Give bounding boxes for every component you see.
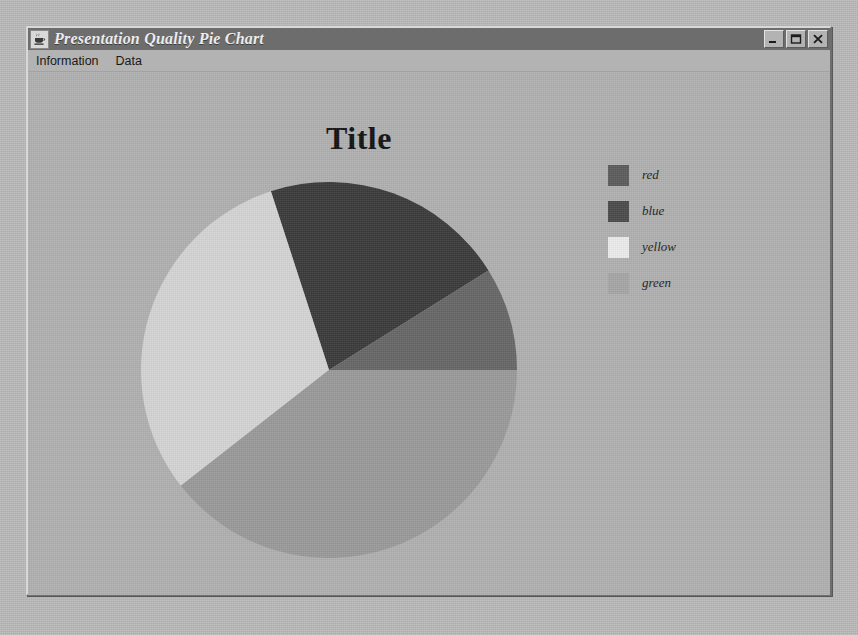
window-title: Presentation Quality Pie Chart (54, 30, 764, 48)
legend-swatch-yellow (608, 237, 629, 258)
window-controls (764, 30, 828, 48)
legend-swatch-red (608, 165, 629, 186)
close-button[interactable] (808, 30, 828, 48)
chart-legend: red blue yellow green (608, 157, 738, 301)
application-window: Presentation Quality Pie Chart Info (26, 26, 832, 596)
legend-label-blue: blue (642, 203, 664, 219)
chart-title: Title (28, 120, 830, 157)
legend-item-blue[interactable]: blue (608, 193, 738, 229)
title-bar[interactable]: Presentation Quality Pie Chart (28, 28, 830, 50)
java-coffee-cup-icon[interactable] (30, 30, 49, 49)
legend-label-red: red (642, 167, 659, 183)
legend-swatch-blue (608, 201, 629, 222)
pie-slice-group (141, 182, 517, 558)
maximize-button[interactable] (786, 30, 806, 48)
chart-canvas: Title red blue yellow green (28, 72, 830, 595)
legend-item-green[interactable]: green (608, 265, 738, 301)
legend-item-red[interactable]: red (608, 157, 738, 193)
legend-label-green: green (642, 275, 671, 291)
menu-item-data[interactable]: Data (116, 52, 151, 70)
minimize-button[interactable] (764, 30, 784, 48)
pie-chart[interactable] (141, 182, 517, 558)
legend-label-yellow: yellow (642, 239, 676, 255)
menu-item-information[interactable]: Information (36, 52, 108, 70)
legend-swatch-green (608, 273, 629, 294)
menu-bar: Information Data (28, 50, 830, 72)
legend-item-yellow[interactable]: yellow (608, 229, 738, 265)
